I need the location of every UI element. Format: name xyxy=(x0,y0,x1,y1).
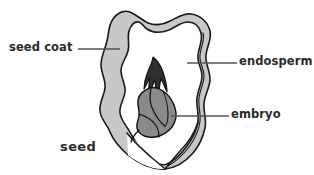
seed-cross-section-illustration xyxy=(0,0,314,175)
label-embryo: embryo xyxy=(231,109,281,121)
seed-diagram-figure: seed coat endosperm embryo seed xyxy=(0,0,314,175)
label-seed-coat: seed coat xyxy=(9,42,73,54)
label-endosperm: endosperm xyxy=(239,56,313,68)
figure-caption-seed: seed xyxy=(60,140,96,153)
